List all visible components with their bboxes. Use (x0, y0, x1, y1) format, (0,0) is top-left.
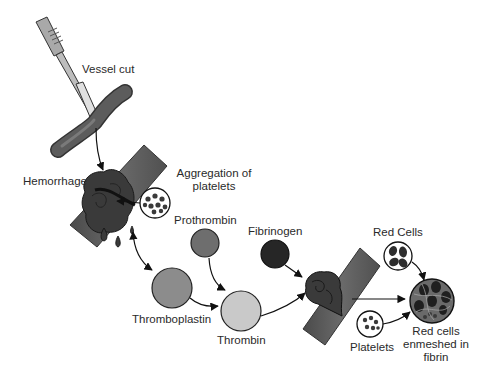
label-red-cells: Red Cells (373, 226, 423, 239)
label-result-line2: enmeshed in (403, 338, 469, 351)
arrow-red-cells-to-clot (412, 262, 424, 280)
arrow-thrombin-to-clot (261, 293, 305, 316)
fibrinogen-circle (261, 240, 289, 268)
fibrin-clot-icon (410, 279, 454, 323)
label-aggregation-line1: Aggregation of (174, 167, 254, 180)
label-hemorrhage: Hemorrhage (23, 175, 87, 188)
label-thromboplastin: Thromboplastin (132, 313, 211, 326)
platelets-circle-icon (357, 311, 383, 337)
label-platelets: Platelets (350, 341, 394, 354)
arrow-thromboplastin-to-thrombin (190, 298, 218, 306)
label-thrombin: Thrombin (217, 334, 266, 347)
label-red-cells-enmeshed-in-fibrin: Red cells enmeshed in fibrin (403, 325, 469, 364)
arrow-hemorrhage-to-thromboplastin (133, 232, 152, 270)
arrow-fibrinogen-to-clot (285, 265, 302, 277)
label-result-line3: fibrin (403, 351, 469, 364)
thromboplastin-circle (152, 268, 192, 308)
arrow-cut-to-hemorrhage (96, 128, 103, 170)
label-aggregation-of-platelets: Aggregation of platelets (174, 167, 254, 193)
label-result-line1: Red cells (403, 325, 469, 338)
thrombin-circle (221, 291, 261, 331)
arrow-prothrombin-to-thrombin (209, 258, 225, 290)
label-aggregation-line2: platelets (174, 180, 254, 193)
arrow-platelets-to-clot (383, 312, 410, 324)
prothrombin-circle (191, 229, 219, 257)
label-vessel-cut: Vessel cut (82, 63, 134, 76)
label-fibrinogen: Fibrinogen (248, 225, 302, 238)
label-prothrombin: Prothrombin (174, 214, 237, 227)
platelets-aggregation-icon (140, 188, 170, 218)
red-cells-circle-icon (384, 242, 412, 270)
